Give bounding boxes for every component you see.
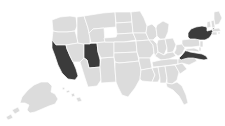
state-MI[interactable] [156, 21, 169, 39]
state-WI[interactable] [146, 24, 157, 40]
us-choropleth-map [0, 0, 225, 126]
state-PA[interactable] [182, 39, 200, 47]
state-ME[interactable] [214, 11, 222, 25]
state-AK[interactable] [6, 82, 58, 120]
state-NM[interactable] [100, 57, 116, 83]
state-WY[interactable] [89, 28, 105, 43]
state-NE[interactable] [104, 33, 136, 42]
state-MN[interactable] [131, 11, 147, 33]
state-OR[interactable] [52, 31, 78, 45]
state-HI[interactable] [62, 87, 82, 102]
state-RI[interactable] [218, 32, 220, 34]
state-DE[interactable] [199, 47, 201, 51]
state-NY[interactable] [188, 26, 215, 40]
state-OH[interactable] [165, 38, 176, 53]
state-CT[interactable] [212, 32, 217, 35]
state-KS[interactable] [114, 41, 137, 53]
state-VT[interactable] [207, 21, 211, 28]
state-MA[interactable] [212, 28, 221, 32]
state-FL[interactable] [166, 82, 188, 105]
state-SD[interactable] [116, 22, 133, 34]
us-map-svg [0, 0, 225, 126]
state-WA[interactable] [52, 16, 77, 32]
state-ND[interactable] [115, 12, 132, 23]
state-TX[interactable] [115, 61, 141, 97]
state-NJ[interactable] [200, 41, 203, 47]
